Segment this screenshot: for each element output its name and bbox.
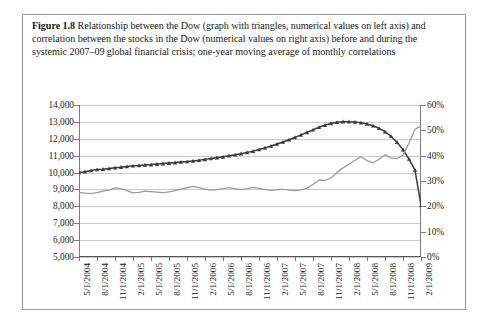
- x-axis-tickmark: [223, 257, 224, 261]
- y-axis-right-tickmark: [421, 206, 426, 207]
- x-axis-tickmark: [205, 257, 206, 261]
- y-axis-left-tick-label: 5,000: [53, 253, 74, 262]
- gridline: [80, 257, 420, 258]
- x-axis-tickmark: [115, 257, 116, 261]
- x-axis-tickmark: [259, 257, 260, 261]
- x-axis-tickmark: [421, 257, 422, 261]
- x-axis-tickmark: [97, 257, 98, 261]
- x-axis-tick-label: 2/1/2009: [425, 263, 434, 296]
- y-axis-left-tick-label: 14,000: [48, 101, 74, 110]
- y-axis-right-tick-label: 30%: [427, 177, 444, 186]
- y-axis-left-tick-label: 10,000: [48, 168, 74, 177]
- y-axis-right-tick-label: 60%: [427, 101, 444, 110]
- y-axis-left-tick-label: 11,000: [49, 151, 74, 160]
- x-axis-tick-label: 8/1/2004: [101, 263, 110, 296]
- x-axis-tickmark: [277, 257, 278, 261]
- x-axis-tick-label: 11/1/2006: [263, 263, 272, 300]
- x-axis-tick-label: 2/1/2006: [209, 263, 218, 296]
- x-axis-tick-label: 5/1/2008: [371, 263, 380, 296]
- x-axis-tick-label: 5/1/2006: [227, 263, 236, 296]
- x-axis-tick-label: 11/1/2005: [191, 263, 200, 300]
- y-axis-left-tick-label: 13,000: [48, 117, 74, 126]
- x-axis-tick-label: 2/1/2008: [353, 263, 362, 296]
- y-axis-right-tick-label: 50%: [427, 126, 444, 135]
- x-axis-tick-label: 11/1/2008: [407, 263, 416, 300]
- x-axis-tickmark: [151, 257, 152, 261]
- y-axis-right: 0%10%20%30%40%50%60%: [427, 105, 471, 257]
- x-axis-tickmark: [241, 257, 242, 261]
- x-axis-tickmark: [79, 257, 80, 261]
- x-axis-tick-label: 11/1/2007: [335, 263, 344, 300]
- x-axis-tickmark: [295, 257, 296, 261]
- x-axis-tickmark: [187, 257, 188, 261]
- y-axis-right-tick-label: 10%: [427, 227, 444, 236]
- x-axis-tick-label: 5/1/2007: [299, 263, 308, 296]
- y-axis-left-tick-label: 12,000: [48, 134, 74, 143]
- figure-caption: Figure 1.8 Relationship between the Dow …: [32, 19, 454, 59]
- series-line-dow: [79, 122, 421, 206]
- x-axis-tickmark: [349, 257, 350, 261]
- x-axis-tick-label: 5/1/2004: [83, 263, 92, 296]
- x-axis-tickmark: [313, 257, 314, 261]
- y-axis-right-tickmark: [421, 130, 426, 131]
- series-line-correlation: [79, 126, 421, 194]
- figure-container: Figure 1.8 Relationship between the Dow …: [22, 14, 466, 310]
- y-axis-right-tick-label: 0%: [427, 253, 439, 262]
- x-axis-tickmark: [331, 257, 332, 261]
- x-axis-tickmark: [169, 257, 170, 261]
- y-axis-right-tick-label: 20%: [427, 202, 444, 211]
- figure-caption-text: Relationship between the Dow (graph with…: [32, 20, 426, 57]
- chart: 5,0006,0007,0008,0009,00010,00011,00012,…: [23, 85, 467, 309]
- x-axis-tickmark: [403, 257, 404, 261]
- y-axis-right-tickmark: [421, 181, 426, 182]
- x-axis-tick-label: 5/1/2005: [155, 263, 164, 296]
- x-axis-tick-label: 8/1/2008: [389, 263, 398, 296]
- x-axis-tickmark: [385, 257, 386, 261]
- y-axis-left-tick-label: 8,000: [53, 202, 74, 211]
- x-axis-tick-label: 8/1/2007: [317, 263, 326, 296]
- x-axis-tick-label: 2/1/2005: [137, 263, 146, 296]
- x-axis-tickmark: [133, 257, 134, 261]
- x-axis-tick-label: 11/1/2004: [119, 263, 128, 300]
- y-axis-right-tickmark: [421, 156, 426, 157]
- x-axis-tick-label: 8/1/2006: [245, 263, 254, 296]
- y-axis-right-tickmark: [421, 105, 426, 106]
- y-axis-left-tick-label: 7,000: [53, 219, 74, 228]
- y-axis-left-tick-label: 9,000: [53, 185, 74, 194]
- x-axis-tick-label: 2/1/2007: [281, 263, 290, 296]
- series-layer: [79, 105, 421, 257]
- x-axis-tick-label: 8/1/2005: [173, 263, 182, 296]
- x-axis-tickmark: [367, 257, 368, 261]
- figure-number: Figure 1.8: [32, 20, 75, 31]
- y-axis-left: 5,0006,0007,0008,0009,00010,00011,00012,…: [23, 105, 74, 257]
- y-axis-right-tick-label: 40%: [427, 151, 444, 160]
- y-axis-left-tick-label: 6,000: [53, 236, 74, 245]
- y-axis-right-tickmark: [421, 232, 426, 233]
